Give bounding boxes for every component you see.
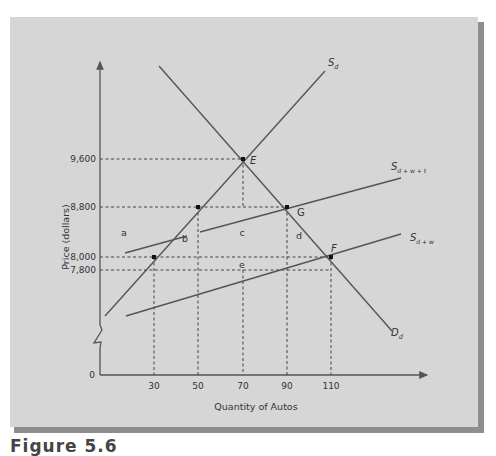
area-label-c: c	[239, 227, 244, 238]
point-30-8000	[152, 255, 156, 259]
reference-lines	[100, 159, 331, 375]
y-tick: 7,800	[70, 265, 96, 275]
curve-label-sdwt: Sd + w + t	[391, 161, 427, 174]
axis-break-icon	[94, 325, 102, 375]
x-tick: 110	[322, 381, 339, 391]
curve-label-sd: Sd	[328, 57, 339, 71]
point-g	[285, 205, 289, 209]
x-tick: 50	[192, 381, 204, 391]
curves	[105, 66, 401, 331]
supply-curve-sdwt-left	[125, 236, 187, 253]
point-f	[329, 255, 333, 259]
point-labels: E G F	[250, 155, 337, 254]
supply-curve-sdwt-right	[200, 178, 401, 232]
y-tick: 8,800	[70, 202, 96, 212]
area-label-d: d	[296, 230, 302, 241]
x-axis-title: Quantity of Autos	[214, 401, 297, 412]
y-tick: 9,600	[70, 154, 96, 164]
x-tick: 70	[237, 381, 249, 391]
y-axis-title: Price (dollars)	[60, 204, 71, 269]
y-tick-labels: 9,600 8,800 8,000 7,800 0	[70, 154, 96, 380]
point-label-e: E	[250, 155, 257, 166]
origin-label: 0	[89, 370, 95, 380]
y-tick: 8,000	[70, 252, 96, 262]
demand-curve-dd	[159, 66, 392, 331]
figure-caption: Figure 5.6	[10, 436, 118, 456]
axes	[94, 62, 427, 375]
x-tick: 30	[148, 381, 160, 391]
curve-label-dd: Dd	[391, 327, 404, 341]
point-50-8800	[196, 205, 200, 209]
curve-label-sdw: Sd + w	[410, 232, 434, 245]
point-e	[241, 157, 245, 161]
supply-curve-sd	[105, 71, 325, 316]
area-label-e: e	[239, 259, 245, 270]
curve-labels: Sd Dd Sd + w + t Sd + w	[328, 57, 434, 341]
point-label-f: F	[331, 243, 337, 254]
x-tick: 90	[281, 381, 293, 391]
point-label-g: G	[297, 207, 305, 218]
x-tick-labels: 30 50 70 90 110	[148, 381, 340, 391]
area-label-a: a	[121, 227, 127, 238]
area-labels: a b c d e	[121, 227, 302, 270]
area-label-b: b	[182, 233, 188, 244]
